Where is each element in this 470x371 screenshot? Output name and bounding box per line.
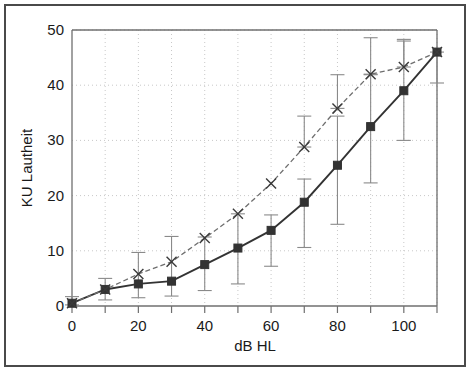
error-bars: [65, 38, 444, 305]
series-lines: [72, 52, 437, 303]
data-point-marker: [267, 226, 275, 234]
chart-canvas: 02040608010001020304050 dB HL KU Lauthei…: [0, 0, 470, 371]
figure-container: 02040608010001020304050 dB HL KU Lauthei…: [0, 0, 470, 371]
series-line-solid-squares: [72, 52, 437, 303]
axis-ticks: [72, 306, 437, 313]
y-tick-label: 20: [47, 187, 64, 204]
y-tick-label: 10: [47, 242, 64, 259]
x-tick-label: 40: [196, 317, 213, 334]
data-point-marker: [367, 123, 375, 131]
data-point-marker: [134, 280, 142, 288]
line-chart: 02040608010001020304050 dB HL KU Lauthei…: [0, 0, 470, 371]
y-tick-label: 0: [56, 297, 64, 314]
x-axis-title: dB HL: [234, 337, 276, 354]
y-tick-label: 30: [47, 131, 64, 148]
x-tick-label: 0: [68, 317, 76, 334]
x-tick-label: 60: [263, 317, 280, 334]
series-markers: [67, 47, 442, 308]
data-point-marker: [300, 198, 308, 206]
data-point-marker: [333, 161, 341, 169]
y-tick-label: 40: [47, 76, 64, 93]
x-tick-label: 80: [329, 317, 346, 334]
x-tick-label: 20: [130, 317, 147, 334]
y-axis-title: KU Lautheit: [18, 128, 35, 207]
x-tick-label: 100: [391, 317, 416, 334]
data-point-marker: [400, 87, 408, 95]
data-point-marker: [201, 261, 209, 269]
data-point-marker: [234, 244, 242, 252]
series-line-dashed-crosses: [72, 52, 437, 303]
data-point-marker: [168, 277, 176, 285]
y-tick-label: 50: [47, 21, 64, 38]
